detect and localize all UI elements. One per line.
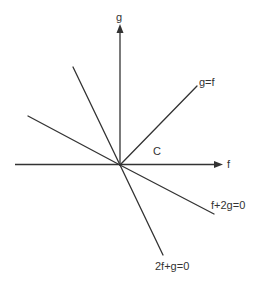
label-g-equals-f: g=f	[199, 76, 216, 88]
line-f-plus-2g-equals-0	[120, 165, 214, 214]
f-axis-label: f	[227, 158, 231, 170]
line-2f-plus-g-equals-0	[120, 165, 163, 255]
g-axis-arrow-icon	[117, 24, 124, 33]
label-f-plus-2g-equals-0: f+2g=0	[211, 199, 245, 211]
region-c-label: C	[153, 145, 161, 157]
label-2f-plus-g-equals-0: 2f+g=0	[155, 260, 189, 272]
line-upper-left-steep	[73, 67, 120, 165]
cone-diagram: g f g=f f+2g=0 2f+g=0 C	[0, 0, 256, 290]
line-upper-left-shallow	[28, 116, 120, 165]
g-axis-label: g	[116, 11, 122, 23]
f-axis-arrow-icon	[214, 161, 223, 168]
